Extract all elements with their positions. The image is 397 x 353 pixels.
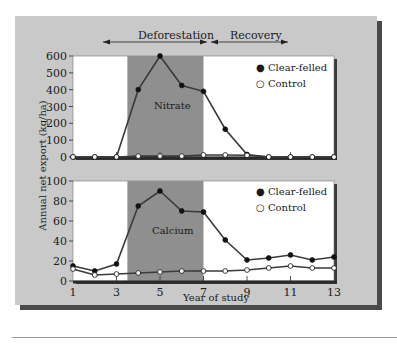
open-circle-marker [201, 153, 206, 158]
x-tick-label: 5 [157, 286, 164, 299]
open-circle-marker [158, 154, 163, 159]
filled-circle-icon: ● [256, 62, 265, 73]
open-circle-marker [288, 264, 293, 269]
bottom-annotation: Calcium [152, 225, 194, 236]
open-circle-marker [71, 155, 76, 160]
filled-circle-marker [223, 127, 228, 132]
filled-circle-marker [179, 83, 184, 88]
open-circle-marker [288, 155, 293, 160]
filled-circle-marker [158, 54, 163, 59]
x-tick-label: 13 [327, 286, 341, 299]
open-circle-marker [136, 154, 141, 159]
open-circle-marker [245, 268, 250, 273]
open-circle-marker [223, 269, 228, 274]
open-circle-marker [136, 271, 141, 276]
open-circle-marker [266, 266, 271, 271]
phase-recovery-label: Recovery [230, 29, 282, 42]
open-circle-marker [332, 266, 337, 271]
legend-label: Control [268, 202, 306, 213]
x-axis-label: Year of study [183, 292, 249, 303]
legend-label: Clear-felled [268, 186, 327, 197]
open-circle-marker [114, 272, 119, 277]
legend-label: Control [268, 78, 306, 89]
filled-circle-marker [114, 262, 119, 267]
y-tick-label: 0 [60, 275, 67, 288]
y-tick-label: 60 [53, 215, 67, 228]
filled-circle-marker [288, 253, 293, 258]
open-circle-marker [310, 155, 315, 160]
x-tick-label: 3 [113, 286, 120, 299]
x-tick-label: 1 [70, 286, 77, 299]
open-circle-marker [245, 153, 250, 158]
filled-circle-marker [266, 256, 271, 261]
open-circle-marker [92, 273, 97, 278]
open-circle-marker [266, 155, 271, 160]
y-tick-label: 200 [46, 117, 67, 130]
filled-circle-marker [332, 255, 337, 260]
arrow-right-icon [281, 40, 288, 45]
phase-deforestation-label: Deforestation [138, 29, 214, 42]
y-tick-label: 300 [46, 101, 67, 114]
y-tick-label: 500 [46, 67, 67, 80]
filled-circle-marker [179, 209, 184, 214]
filled-circle-marker [136, 87, 141, 92]
filled-circle-marker [245, 258, 250, 263]
y-tick-label: 20 [53, 255, 67, 268]
filled-circle-marker [310, 258, 315, 263]
y-tick-label: 40 [53, 235, 67, 248]
open-circle-marker [332, 155, 337, 160]
open-circle-marker [310, 266, 315, 271]
legend-top-clear: ● Clear-felled [256, 62, 327, 73]
top-annotation: Nitrate [154, 100, 191, 111]
filled-circle-marker [223, 238, 228, 243]
x-tick-label: 11 [284, 286, 298, 299]
open-circle-marker [71, 267, 76, 272]
y-tick-label: 100 [46, 175, 67, 188]
open-circle-marker [223, 153, 228, 158]
legend-bottom-control: ○ Control [256, 202, 306, 213]
y-tick-label: 0 [60, 151, 67, 164]
y-axis-label: Annual net export (kg/ha) [37, 96, 48, 236]
filled-circle-marker [136, 204, 141, 209]
open-circle-icon: ○ [256, 78, 265, 89]
y-tick-label: 400 [46, 84, 67, 97]
y-tick-label: 600 [46, 50, 67, 63]
legend-bottom-clear: ● Clear-felled [256, 186, 327, 197]
arrow-left-icon [103, 40, 110, 45]
filled-circle-marker [201, 89, 206, 94]
y-tick-label: 80 [53, 195, 67, 208]
open-circle-icon: ○ [256, 202, 265, 213]
legend-label: Clear-felled [268, 62, 327, 73]
open-circle-marker [179, 154, 184, 159]
open-circle-marker [114, 155, 119, 160]
open-circle-marker [92, 155, 97, 160]
legend-top-control: ○ Control [256, 78, 306, 89]
open-circle-marker [201, 269, 206, 274]
filled-circle-marker [201, 210, 206, 215]
open-circle-marker [179, 269, 184, 274]
filled-circle-icon: ● [256, 186, 265, 197]
y-tick-label: 100 [46, 134, 67, 147]
open-circle-marker [158, 270, 163, 275]
filled-circle-marker [158, 189, 163, 194]
